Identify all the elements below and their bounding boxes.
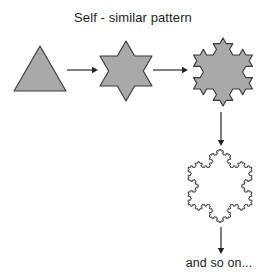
- arrow-snowflake2-to-snowflake4: [218, 112, 224, 146]
- self-similar-pattern-figure: Self - similar pattern and so on...: [0, 0, 266, 277]
- koch-snowflake-stage-2: [194, 38, 253, 106]
- arrow-head-icon: [182, 67, 188, 73]
- koch-snowflake-stage-4: [188, 149, 252, 223]
- arrow-head-icon: [218, 140, 224, 146]
- and-so-on-caption: and so on...: [176, 256, 262, 271]
- arrow-star-to-snowflake2: [153, 67, 188, 73]
- triangle: [14, 46, 66, 91]
- shapes-layer: [14, 38, 252, 223]
- arrow-head-icon: [218, 248, 224, 254]
- arrow-triangle-to-star: [67, 67, 98, 73]
- figure-canvas: [0, 0, 266, 277]
- figure-title: Self - similar pattern: [0, 10, 266, 26]
- arrows-layer: [67, 67, 224, 254]
- six-point-star: [100, 41, 152, 101]
- arrow-snowflake4-to-caption: [218, 227, 224, 254]
- arrow-head-icon: [92, 67, 98, 73]
